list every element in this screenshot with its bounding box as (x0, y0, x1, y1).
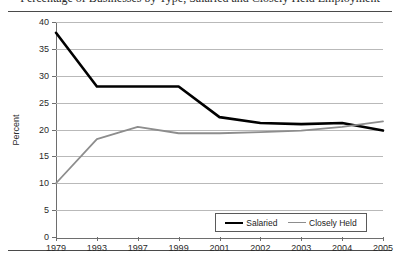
x-tick-label: 2003 (291, 243, 311, 253)
legend-swatch-salaried-icon (225, 222, 243, 224)
x-tick (301, 237, 302, 241)
legend-item-closely-held[interactable]: Closely Held (288, 218, 357, 228)
plot-area: 0510152025303540 19791993199719992001200… (56, 22, 383, 237)
y-tick-label: 10 (39, 178, 49, 188)
y-axis-title: Percent (11, 114, 21, 145)
x-tick-label: 1979 (46, 243, 66, 253)
legend-label-closely-held: Closely Held (309, 218, 357, 228)
x-tick (56, 237, 57, 241)
x-tick-label: 2004 (332, 243, 352, 253)
x-tick (383, 237, 384, 241)
y-tick-label: 20 (39, 125, 49, 135)
y-tick-label: 30 (39, 71, 49, 81)
legend-label-salaried: Salaried (246, 218, 277, 228)
x-tick-label: 1999 (169, 243, 189, 253)
y-tick-label: 15 (39, 151, 49, 161)
series-line-closely-held (56, 121, 383, 183)
x-tick-label: 2005 (373, 243, 393, 253)
series-lines (56, 22, 383, 237)
chart-figure: Percentage of Businesses by Type, Salari… (0, 0, 400, 267)
y-tick-label: 5 (44, 205, 49, 215)
figure-title-text: Percentage of Businesses by Type, Salari… (0, 0, 400, 5)
y-tick-label: 25 (39, 98, 49, 108)
x-tick (97, 237, 98, 241)
legend-item-salaried[interactable]: Salaried (225, 218, 277, 228)
figure-title-clipped: Percentage of Businesses by Type, Salari… (0, 0, 400, 5)
x-tick (342, 237, 343, 241)
x-tick (179, 237, 180, 241)
x-tick-label: 2002 (250, 243, 270, 253)
x-tick-label: 1997 (128, 243, 148, 253)
y-tick-label: 0 (44, 232, 49, 242)
series-line-salaried (56, 33, 383, 131)
legend-swatch-closely-held-icon (288, 222, 306, 223)
x-tick (260, 237, 261, 241)
y-tick-label: 35 (39, 44, 49, 54)
x-tick (220, 237, 221, 241)
x-tick-label: 1993 (87, 243, 107, 253)
top-divider-rule (8, 11, 392, 12)
chart-legend[interactable]: Salaried Closely Held (215, 213, 367, 232)
x-tick-label: 2001 (209, 243, 229, 253)
y-tick-label: 40 (39, 17, 49, 27)
x-tick (138, 237, 139, 241)
